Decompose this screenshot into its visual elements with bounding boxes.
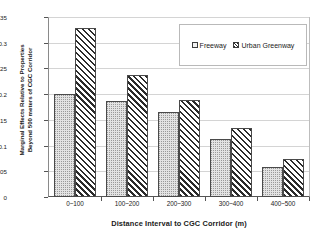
y-axis-title-line-2: Beyond 500 meters of CGC Corridor [26, 48, 34, 153]
bar-urban-greenway [127, 75, 148, 197]
x-axis-tick-mark [309, 197, 310, 201]
bar-freeway [106, 101, 127, 197]
x-axis-tick-mark [205, 197, 206, 201]
y-axis-tick-label: 0.25 [0, 65, 7, 72]
x-axis-tick-label: 0~100 [49, 200, 101, 207]
bar-urban-greenway [179, 100, 200, 197]
y-axis-tick-label: 0.15 [0, 117, 7, 124]
bar-urban-greenway [231, 128, 252, 197]
y-axis-title: Marginal Effects Relative to Properties … [15, 5, 37, 195]
y-axis-tick-label: 0.35 [0, 14, 7, 21]
x-axis-tick-labels: 0~100100~200200~300300~400400~500 [49, 200, 309, 207]
legend-swatch-icon [233, 42, 239, 48]
x-axis-tick-mark [153, 197, 154, 201]
bar-chart-figure: Marginal Effects Relative to Properties … [0, 0, 323, 239]
x-axis-tick-mark [257, 197, 258, 201]
legend: FreewayUrban Greenway [179, 24, 307, 66]
legend-label: Urban Greenway [241, 42, 294, 49]
y-axis-tick-label: 0.05 [0, 168, 7, 175]
x-axis-title: Distance Interval to CGC Corridor (m) [48, 219, 310, 228]
bar-urban-greenway [283, 159, 304, 197]
x-axis-tick-label: 200~300 [153, 200, 205, 207]
bar-freeway [54, 94, 75, 197]
bar-group [101, 18, 153, 197]
y-axis-tick-mark [44, 197, 48, 198]
bar-urban-greenway [75, 28, 96, 197]
bar-freeway [262, 167, 283, 197]
legend-entry: Freeway [192, 42, 227, 49]
bar-group [49, 18, 101, 197]
legend-entry: Urban Greenway [233, 42, 294, 49]
legend-label: Freeway [200, 42, 227, 49]
x-axis-tick-label: 300~400 [205, 200, 257, 207]
legend-swatch-icon [192, 42, 198, 48]
y-axis-title-line-1: Marginal Effects Relative to Properties [18, 44, 26, 155]
bar-freeway [158, 112, 179, 197]
y-axis-tick-label: 0.1 [0, 142, 7, 149]
x-axis-tick-label: 400~500 [257, 200, 309, 207]
x-axis-tick-label: 100~200 [101, 200, 153, 207]
y-axis-tick-label: 0.3 [0, 39, 7, 46]
y-axis-tick-label: 0 [0, 194, 7, 201]
x-axis-tick-mark [101, 197, 102, 201]
bar-freeway [210, 139, 231, 197]
y-axis-tick-label: 0.2 [0, 91, 7, 98]
